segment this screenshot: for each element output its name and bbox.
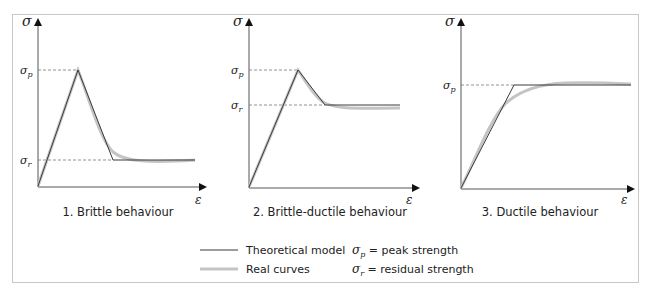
legend-label-real: Real curves: [246, 263, 310, 276]
stress-strain-diagram: σ ε σp σr 1. Brittle behaviour σ ε σp σr…: [0, 0, 651, 292]
real-curve: [461, 83, 631, 188]
real-curve: [38, 70, 195, 186]
theoretical-curve: [249, 70, 400, 187]
legend-peak-definition: σp = peak strength: [352, 243, 458, 259]
panel-caption: 1. Brittle behaviour: [62, 205, 173, 219]
panel-ductile: σ ε σp 3. Ductile behaviour: [443, 13, 633, 219]
legend-residual-definition: σr = residual strength: [352, 262, 474, 278]
x-axis-label: ε: [195, 193, 201, 207]
panel-caption: 3. Ductile behaviour: [482, 205, 599, 219]
real-curve: [249, 70, 400, 187]
peak-tick-label: σp: [231, 64, 244, 79]
y-axis-label: σ: [233, 13, 243, 29]
panel-brittle-ductile: σ ε σp σr 2. Brittle-ductile behaviour: [231, 13, 418, 219]
y-axis-label: σ: [22, 13, 32, 29]
y-axis-label: σ: [445, 13, 455, 29]
legend: Theoretical model Real curves σp = peak …: [200, 243, 474, 278]
peak-tick-label: σp: [20, 64, 33, 79]
x-axis-label: ε: [621, 193, 627, 207]
panel-brittle: σ ε σp σr 1. Brittle behaviour: [20, 13, 205, 219]
residual-tick-label: σr: [20, 154, 33, 169]
panel-caption: 2. Brittle-ductile behaviour: [253, 205, 407, 219]
residual-tick-label: σr: [231, 99, 244, 114]
legend-label-theoretical: Theoretical model: [245, 244, 345, 257]
theoretical-curve: [38, 70, 195, 186]
peak-tick-label: σp: [443, 79, 456, 94]
